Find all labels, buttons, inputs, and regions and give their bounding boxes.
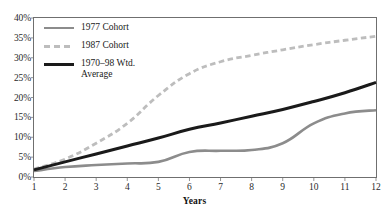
- legend-label-1977-cohort: 1977 Cohort: [74, 22, 129, 33]
- x-axis-tick-label: 6: [179, 182, 199, 193]
- x-axis-tick-label: 3: [86, 182, 106, 193]
- legend-swatch-1977-cohort: [44, 23, 74, 35]
- x-axis-tick-label: 9: [273, 182, 293, 193]
- legend-item-1987-cohort: 1987 Cohort: [44, 40, 194, 58]
- series-line-weighted-average: [34, 82, 376, 169]
- chart-container: 0%5%10%15%20%25%30%35%40% 1977 Cohort 19…: [0, 0, 389, 214]
- legend-item-weighted-average: 1970–98 Wtd. Average: [44, 58, 194, 76]
- legend-label-weighted-average: 1970–98 Wtd. Average: [74, 58, 135, 79]
- legend-swatch-1987-cohort: [44, 41, 74, 53]
- x-axis-tick-label: 11: [335, 182, 355, 193]
- legend-item-1977-cohort: 1977 Cohort: [44, 22, 194, 40]
- legend-label-1987-cohort: 1987 Cohort: [74, 40, 129, 51]
- x-axis-title: Years: [0, 196, 389, 206]
- x-axis-tick-label: 2: [55, 182, 75, 193]
- x-axis-tick-label: 8: [242, 182, 262, 193]
- x-axis-tick-label: 10: [304, 182, 324, 193]
- x-axis-tick-label: 1: [24, 182, 44, 193]
- chart-legend: 1977 Cohort 1987 Cohort 1970–98 Wtd. Ave…: [44, 22, 194, 76]
- series-line-1977-cohort: [34, 110, 376, 171]
- x-axis-tick-label: 12: [366, 182, 386, 193]
- legend-swatch-weighted-average: [44, 59, 74, 71]
- x-axis-tick-label: 5: [148, 182, 168, 193]
- x-axis-tick-label: 4: [117, 182, 137, 193]
- x-axis-tick-label: 7: [211, 182, 231, 193]
